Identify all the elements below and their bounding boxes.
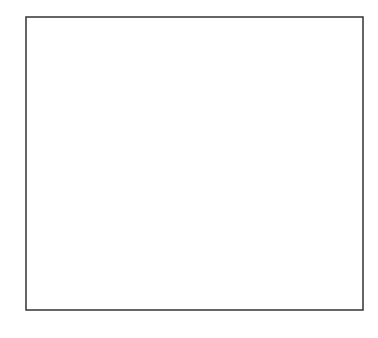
abacus-frame bbox=[26, 17, 363, 310]
abacus-diagram bbox=[0, 0, 378, 338]
